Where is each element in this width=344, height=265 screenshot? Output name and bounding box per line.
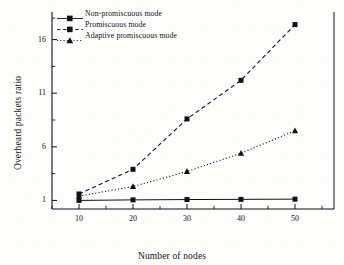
y-tick-label: 6	[28, 142, 46, 151]
legend-swatch-solid-square-icon	[57, 9, 83, 18]
data-point-marker	[77, 198, 82, 203]
x-tick-label: 20	[123, 214, 143, 223]
legend-item-non-promiscuous[interactable]: Non-promiscuous mode	[57, 9, 177, 19]
figure-container: 1611161020304050 Non-promiscuous mode Pr…	[0, 0, 344, 265]
data-point-marker	[239, 78, 244, 83]
legend-swatch-dashed-square-icon	[57, 20, 83, 29]
data-point-marker	[131, 167, 136, 172]
x-tick-label: 50	[285, 214, 305, 223]
legend-item-adaptive-promiscuous[interactable]: Adaptive promiscuous mode	[57, 31, 177, 41]
data-point-marker	[293, 22, 298, 27]
x-axis-title: Number of nodes	[0, 251, 344, 261]
data-point-marker	[185, 197, 190, 202]
tick-marks	[52, 18, 322, 209]
y-axis-title: Overheard packets ratio	[13, 53, 23, 193]
legend-item-promiscuous[interactable]: Promiscuous mode	[57, 20, 177, 30]
legend-label-adaptive-promiscuous: Adaptive promiscuous mode	[85, 31, 177, 40]
x-tick-label: 40	[231, 214, 251, 223]
data-point-marker	[239, 197, 244, 202]
data-point-marker	[293, 197, 298, 202]
y-tick-label: 16	[28, 35, 46, 44]
x-tick-label: 30	[177, 214, 197, 223]
y-tick-label: 1	[28, 195, 46, 204]
legend-swatch-dotted-triangle-icon	[57, 31, 83, 40]
data-point-marker	[292, 127, 298, 133]
y-tick-label: 11	[28, 88, 46, 97]
legend-label-promiscuous: Promiscuous mode	[85, 20, 146, 29]
legend-label-non-promiscuous: Non-promiscuous mode	[85, 9, 162, 18]
data-point-marker	[238, 150, 244, 156]
x-tick-label: 10	[69, 214, 89, 223]
series-layer	[76, 22, 298, 203]
data-point-marker	[131, 197, 136, 202]
data-point-marker	[185, 116, 190, 121]
chart-legend: Non-promiscuous mode Promiscuous mode Ad…	[57, 9, 177, 42]
series-line	[79, 131, 295, 196]
